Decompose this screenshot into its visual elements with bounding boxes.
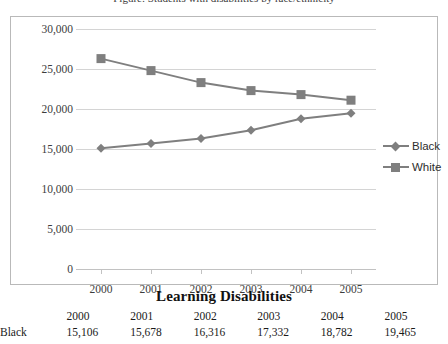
legend-label: Black	[409, 140, 440, 152]
table-column-header: 2000	[67, 308, 131, 324]
y-axis-tick-label: 30,000	[3, 23, 73, 35]
table-header-row: 200020012002200320042005	[0, 308, 448, 324]
series-layer	[76, 29, 376, 269]
data-point-white	[297, 90, 306, 99]
table-row: Black15,10615,67816,31617,33218,78219,46…	[0, 324, 448, 340]
x-axis-tick-mark	[301, 269, 302, 274]
plot-area: 05,00010,00015,00020,00025,00030,000 200…	[76, 29, 376, 269]
legend-item-white[interactable]: White	[383, 156, 445, 177]
data-table: 200020012002200320042005 Black15,10615,6…	[0, 308, 448, 340]
table-header: 200020012002200320042005	[0, 308, 448, 324]
data-point-white	[247, 86, 256, 95]
table-corner-cell	[0, 308, 67, 324]
table-cell: 15,678	[130, 324, 194, 340]
series-line-white	[101, 59, 351, 101]
table-title: Learning Disabilities	[0, 288, 448, 308]
data-point-white	[347, 96, 356, 105]
data-table-area: Learning Disabilities 200020012002200320…	[0, 288, 448, 344]
table-column-header: 2002	[194, 308, 258, 324]
y-axis-tick-label: 15,000	[3, 143, 73, 155]
table-cell: 17,332	[257, 324, 321, 340]
data-point-black	[197, 134, 206, 143]
legend-label: White	[409, 161, 441, 173]
chart-legend: BlackWhite	[383, 135, 445, 177]
x-axis-tick-mark	[151, 269, 152, 274]
table-cell: 18,782	[321, 324, 385, 340]
data-point-white	[197, 78, 206, 87]
table-body: Black15,10615,67816,31617,33218,78219,46…	[0, 324, 448, 340]
x-axis-tick-mark	[351, 269, 352, 274]
x-axis-tick-mark	[251, 269, 252, 274]
square-marker-icon	[383, 161, 409, 173]
data-point-black	[247, 126, 256, 135]
diamond-marker-icon	[383, 140, 409, 152]
table-row-header: Black	[0, 324, 67, 340]
table-column-header: 2001	[130, 308, 194, 324]
data-point-black	[347, 109, 356, 118]
x-axis-tick-mark	[101, 269, 102, 274]
table-cell: 15,106	[67, 324, 131, 340]
table-cell: 19,465	[384, 324, 448, 340]
data-point-white	[147, 66, 156, 75]
y-axis-tick-label: 10,000	[3, 183, 73, 195]
table-cell: 16,316	[194, 324, 258, 340]
y-axis-tick-label: 25,000	[3, 63, 73, 75]
data-point-black	[147, 139, 156, 148]
series-line-black	[101, 113, 351, 148]
y-axis-tick-label: 0	[3, 263, 73, 275]
x-axis-tick-mark	[201, 269, 202, 274]
figure-caption-sliver: Figure: Students with disabilities by ra…	[0, 0, 448, 4]
table-column-header: 2004	[321, 308, 385, 324]
table-column-header: 2003	[257, 308, 321, 324]
data-point-white	[97, 54, 106, 63]
table-column-header: 2005	[384, 308, 448, 324]
legend-item-black[interactable]: Black	[383, 135, 445, 156]
y-axis-tick-label: 5,000	[3, 223, 73, 235]
chart-frame: 05,00010,00015,00020,00025,00030,000 200…	[10, 16, 438, 285]
y-axis-tick-label: 20,000	[3, 103, 73, 115]
data-point-black	[297, 114, 306, 123]
data-point-black	[97, 144, 106, 153]
